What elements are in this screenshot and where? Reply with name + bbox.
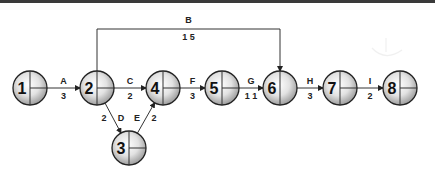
node-number: 3 <box>117 140 126 157</box>
activity-name: F <box>190 76 196 86</box>
network-diagram: A3B1 5C22DE2F3G1 1H3I2 12345678 <box>0 0 435 177</box>
activity-duration: 3 <box>190 91 195 101</box>
node-8: 8 <box>383 71 417 105</box>
activity-duration: 1 5 <box>182 32 195 42</box>
activity-name: G <box>247 76 254 86</box>
activity-name: I <box>369 76 372 86</box>
node-number: 1 <box>18 80 27 97</box>
node-number: 5 <box>210 80 219 97</box>
node-number: 2 <box>85 80 94 97</box>
node-7: 7 <box>323 71 357 105</box>
node-number: 4 <box>151 80 160 97</box>
node-4: 4 <box>146 71 180 105</box>
watermark-icon <box>372 38 402 56</box>
activity-duration: 3 <box>307 91 312 101</box>
activity-name: A <box>60 76 67 86</box>
node-3: 3 <box>112 131 146 165</box>
activity-duration: 1 1 <box>245 91 258 101</box>
activity-name: E <box>134 113 140 123</box>
activity-name: C <box>127 76 134 86</box>
activity-duration: 2 <box>101 113 106 123</box>
activity-duration: 2 <box>151 113 156 123</box>
node-number: 6 <box>268 80 277 97</box>
activity-name: D <box>118 113 125 123</box>
activity-duration: 2 <box>367 91 372 101</box>
node-1: 1 <box>13 71 47 105</box>
node-number: 8 <box>388 80 397 97</box>
activity-name: B <box>185 15 192 25</box>
node-2: 2 <box>80 71 114 105</box>
activity-duration: 3 <box>61 91 66 101</box>
activity-name: H <box>307 76 314 86</box>
node-number: 7 <box>328 80 337 97</box>
node-6: 6 <box>263 71 297 105</box>
activity-duration: 2 <box>127 91 132 101</box>
node-5: 5 <box>205 71 239 105</box>
